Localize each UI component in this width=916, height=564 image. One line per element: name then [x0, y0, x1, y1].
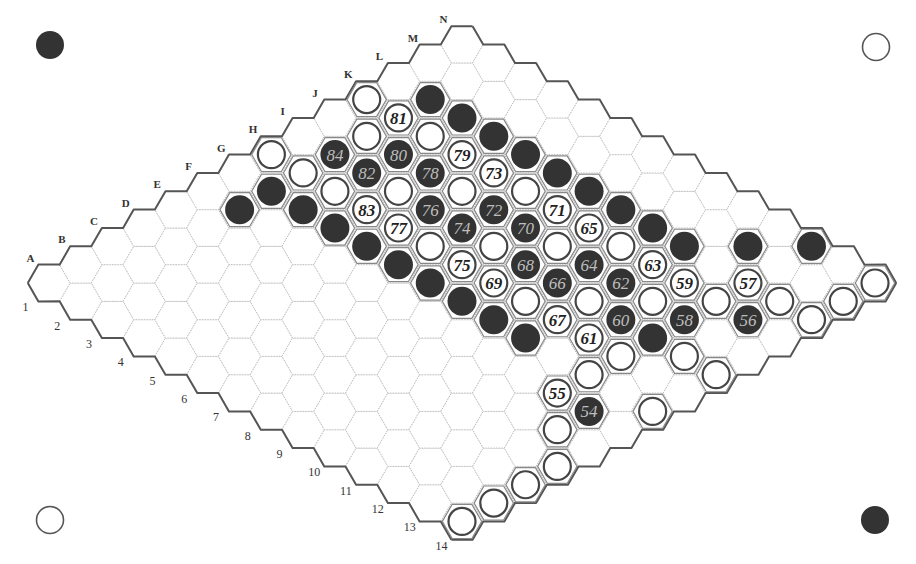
- move-number: 73: [485, 164, 503, 183]
- move-number: 64: [581, 256, 599, 275]
- white-stone-icon: [607, 233, 634, 260]
- move-number: 82: [358, 164, 376, 183]
- black-stone-icon: [384, 250, 413, 279]
- column-label: D: [122, 197, 130, 209]
- column-label: B: [58, 233, 66, 245]
- white-stone-icon: [671, 343, 698, 370]
- move-number: 71: [549, 201, 566, 220]
- move-number: 63: [644, 256, 662, 275]
- white-stone-icon: [639, 398, 666, 425]
- hex-board: ABCDEFGHIJKLMN1234567891011121314 818079…: [0, 0, 916, 564]
- black-stone-icon: [670, 232, 699, 261]
- white-stone-icon: [544, 416, 571, 443]
- move-number: 54: [581, 402, 599, 421]
- row-label: 2: [54, 319, 60, 333]
- move-number: 78: [422, 164, 440, 183]
- row-label: 4: [118, 355, 124, 369]
- column-label: G: [217, 142, 226, 154]
- white-stone-icon: [512, 178, 539, 205]
- row-label: 14: [435, 539, 447, 553]
- white-stone-icon: [353, 123, 380, 150]
- white-stone-icon: [385, 178, 412, 205]
- row-label: 12: [372, 502, 384, 516]
- black-stone-icon: [448, 103, 477, 132]
- column-label: F: [185, 160, 192, 172]
- white-stone-icon: [512, 471, 539, 498]
- white-stone-icon: [703, 288, 730, 315]
- black-stone-icon: [320, 213, 349, 242]
- move-number: 74: [454, 219, 472, 238]
- move-number: 84: [326, 146, 344, 165]
- row-label: 13: [404, 520, 416, 534]
- column-label: M: [408, 32, 419, 44]
- move-number: 83: [358, 201, 376, 220]
- column-label: C: [90, 215, 98, 227]
- white-stone-icon: [417, 233, 444, 260]
- move-number: 57: [739, 274, 758, 293]
- row-label: 3: [86, 337, 92, 351]
- black-stone-icon: [352, 232, 381, 261]
- move-number: 68: [517, 256, 535, 275]
- white-stone-icon: [321, 178, 348, 205]
- black-stone-icon: [289, 195, 318, 224]
- black-stone-icon: [479, 305, 508, 334]
- move-number: 65: [581, 219, 599, 238]
- black-stone-icon: [606, 195, 635, 224]
- black-stone-icon: [448, 287, 477, 316]
- white-stone-icon: [449, 178, 476, 205]
- bottom-right-black-marker-icon: [861, 506, 889, 534]
- white-stone-icon: [449, 508, 476, 535]
- white-stone-icon: [417, 123, 444, 150]
- column-label: E: [153, 178, 160, 190]
- white-stone-icon: [480, 490, 507, 517]
- move-number: 61: [581, 329, 598, 348]
- move-number: 80: [390, 146, 408, 165]
- row-label: 10: [308, 465, 320, 479]
- bottom-left-white-marker-icon: [37, 507, 64, 534]
- move-number: 81: [390, 109, 407, 128]
- black-stone-icon: [416, 85, 445, 114]
- move-number: 66: [549, 274, 567, 293]
- row-label: 6: [181, 392, 187, 406]
- top-right-white-marker-icon: [863, 34, 890, 61]
- white-stone-icon: [703, 361, 730, 388]
- black-stone-icon: [511, 324, 540, 353]
- row-label: 5: [149, 374, 155, 388]
- column-label: L: [376, 50, 383, 62]
- black-stone-icon: [543, 158, 572, 187]
- move-number: 77: [390, 219, 409, 238]
- move-number: 79: [454, 146, 472, 165]
- white-stone-icon: [544, 233, 571, 260]
- black-stone-icon: [225, 195, 254, 224]
- row-label: 7: [213, 410, 219, 424]
- white-stone-icon: [576, 361, 603, 388]
- white-stone-icon: [862, 270, 889, 297]
- row-label: 11: [340, 484, 352, 498]
- column-label: K: [344, 68, 353, 80]
- black-stone-icon: [416, 269, 445, 298]
- row-label: 8: [245, 429, 251, 443]
- move-number: 67: [549, 311, 568, 330]
- white-stone-icon: [512, 288, 539, 315]
- black-stone-icon: [511, 140, 540, 169]
- white-stone-icon: [798, 306, 825, 333]
- move-number: 55: [549, 384, 567, 403]
- white-stone-icon: [766, 288, 793, 315]
- row-label: 1: [22, 300, 28, 314]
- column-label: I: [281, 105, 285, 117]
- column-label: H: [249, 123, 258, 135]
- move-number: 56: [739, 311, 757, 330]
- black-stone-icon: [733, 232, 762, 261]
- white-stone-icon: [607, 343, 634, 370]
- white-stone-icon: [353, 86, 380, 113]
- black-stone-icon: [257, 177, 286, 206]
- white-stone-icon: [480, 233, 507, 260]
- move-number: 69: [485, 274, 503, 293]
- black-stone-icon: [797, 232, 826, 261]
- white-stone-icon: [258, 141, 285, 168]
- white-stone-icon: [576, 288, 603, 315]
- column-label: J: [312, 87, 318, 99]
- white-stone-icon: [639, 288, 666, 315]
- move-number: 59: [676, 274, 694, 293]
- row-label: 9: [277, 447, 283, 461]
